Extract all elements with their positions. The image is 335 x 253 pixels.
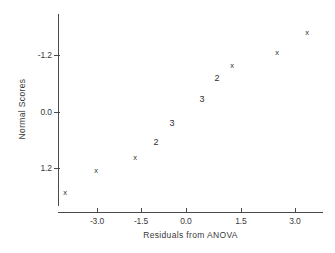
normal-probability-plot: -3.0-1.50.01.53.0 -1.20.01.2 Residuals f… <box>0 0 335 253</box>
y-tick-mark <box>54 168 60 169</box>
x-tick-label: -1.5 <box>121 216 161 226</box>
x-tick-mark <box>97 208 98 213</box>
data-point-count-label: 3 <box>165 119 179 128</box>
x-tick-mark <box>186 208 187 213</box>
x-tick-label: -3.0 <box>77 216 117 226</box>
x-tick-label: 3.0 <box>275 216 315 226</box>
data-point-marker: x <box>58 189 72 197</box>
x-tick-label: 1.5 <box>221 216 261 226</box>
data-point-count-label: 2 <box>149 138 163 147</box>
data-point-marker: x <box>89 167 103 175</box>
x-tick-label: 0.0 <box>166 216 206 226</box>
y-tick-mark <box>54 112 60 113</box>
x-axis-title: Residuals from ANOVA <box>58 230 323 240</box>
data-point-count-label: 3 <box>195 95 209 104</box>
y-axis-title: Normal Scores <box>17 61 27 157</box>
x-tick-mark <box>241 208 242 213</box>
x-tick-mark <box>141 208 142 213</box>
data-point-marker: x <box>270 49 284 57</box>
x-tick-mark <box>295 208 296 213</box>
data-point-marker: x <box>225 62 239 70</box>
y-tick-label: 1.2 <box>12 163 52 173</box>
y-tick-label: -1.2 <box>12 50 52 60</box>
y-axis-line <box>58 14 59 206</box>
data-point-marker: x <box>128 154 142 162</box>
data-point-count-label: 2 <box>210 74 224 83</box>
y-tick-mark <box>54 55 60 56</box>
data-point-marker: x <box>300 29 314 37</box>
